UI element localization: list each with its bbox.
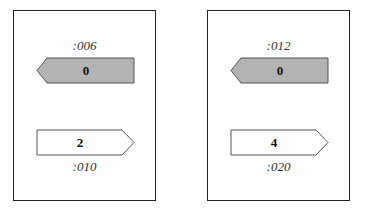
- left-arrow-value: 0: [230, 63, 330, 79]
- right-arrow-value: 2: [36, 135, 124, 151]
- left-arrow-value: 0: [36, 63, 136, 79]
- bottom-address-label: :020: [208, 159, 349, 175]
- memory-panel-1: :006 0 2 :010: [13, 10, 156, 201]
- bottom-address-label: :010: [14, 159, 155, 175]
- top-address-label: :006: [14, 38, 155, 54]
- right-arrow-value: 4: [230, 135, 318, 151]
- memory-panel-2: :012 0 4 :020: [207, 10, 350, 201]
- top-address-label: :012: [208, 38, 349, 54]
